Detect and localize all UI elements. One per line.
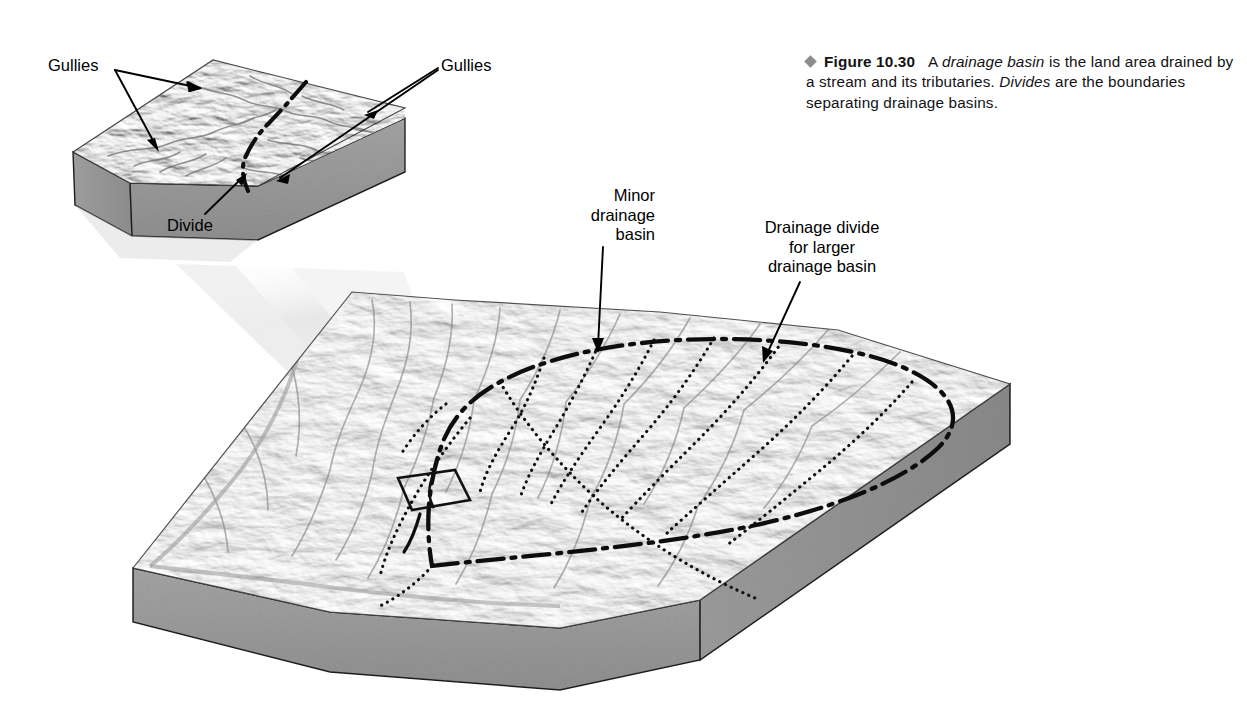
label-minor-drainage-basin: Minor drainage basin [545, 186, 655, 245]
caption-italic-2: Divides [999, 73, 1050, 90]
figure-caption: Figure 10.30A drainage basin is the land… [806, 52, 1238, 113]
label-drainage-divide-larger: Drainage divide for larger drainage basi… [727, 218, 917, 277]
figure-number: Figure 10.30 [824, 53, 915, 70]
figure-stage: Gullies Gullies Divide Minor drainage ba… [0, 0, 1247, 709]
label-gullies-right: Gullies [441, 56, 491, 76]
caption-text-1: A [928, 53, 942, 70]
inset-magnified-block [60, 50, 420, 262]
caption-italic-1: drainage basin [942, 53, 1045, 70]
label-gullies-left: Gullies [48, 56, 98, 76]
label-divide: Divide [167, 216, 213, 236]
diamond-bullet-icon [804, 55, 817, 68]
